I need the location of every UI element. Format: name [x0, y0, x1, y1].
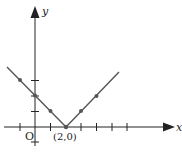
point-4-2 [95, 94, 99, 98]
x-axis-arrow-icon [163, 123, 175, 132]
graph-canvas: y x O (2,0) [0, 0, 182, 156]
y-axis-label: y [41, 5, 49, 18]
point-0-2 [33, 94, 37, 98]
y-axis-arrow-icon [31, 6, 40, 18]
x-axis-label: x [176, 121, 182, 134]
point-neg1-3 [18, 78, 22, 82]
point-3-1 [79, 109, 83, 113]
vertex-label: (2,0) [53, 131, 77, 142]
point-vertex [64, 125, 68, 129]
origin-label: O [25, 130, 34, 143]
graph-points [18, 78, 99, 129]
point-1-1 [49, 109, 53, 113]
graph-line [7, 67, 119, 127]
